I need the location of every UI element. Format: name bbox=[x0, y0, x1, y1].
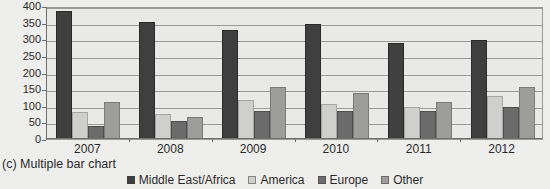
bar bbox=[420, 111, 436, 139]
y-axis-tick-label: 100 bbox=[0, 101, 41, 112]
bar bbox=[238, 100, 254, 139]
legend-swatch-icon bbox=[381, 176, 389, 184]
figure-caption: (c) Multiple bar chart bbox=[2, 157, 116, 172]
legend-item: Europe bbox=[318, 174, 369, 187]
y-axis-tick-label: 150 bbox=[0, 84, 41, 95]
chart-legend: Middle East/AfricaAmericaEuropeOther bbox=[0, 172, 550, 188]
legend-swatch-icon bbox=[248, 176, 256, 184]
legend-label: Europe bbox=[330, 174, 369, 187]
x-axis-tick-label: 2010 bbox=[295, 142, 378, 156]
y-axis-tick-label: 250 bbox=[0, 51, 41, 62]
legend-label: America bbox=[260, 174, 304, 187]
legend-swatch-icon bbox=[127, 176, 135, 184]
bar bbox=[404, 107, 420, 139]
legend-item: Other bbox=[381, 174, 423, 187]
bar-group bbox=[47, 8, 130, 139]
x-axis-tick-mark bbox=[129, 138, 130, 142]
bar-series-container bbox=[47, 8, 542, 139]
x-axis-tick-label: 2007 bbox=[46, 142, 129, 156]
legend-label: Other bbox=[393, 174, 423, 187]
bar bbox=[388, 43, 404, 139]
y-axis-tick-mark bbox=[42, 140, 46, 141]
bar-group bbox=[213, 8, 296, 139]
x-axis-tick-mark bbox=[295, 138, 296, 142]
bar bbox=[222, 30, 238, 139]
plot-area bbox=[46, 7, 543, 140]
legend-item: Middle East/Africa bbox=[127, 174, 236, 187]
bar bbox=[155, 114, 171, 139]
legend-label: Middle East/Africa bbox=[139, 174, 236, 187]
bar bbox=[56, 11, 72, 139]
bar bbox=[487, 96, 503, 139]
legend-swatch-icon bbox=[318, 176, 326, 184]
bar bbox=[88, 126, 104, 139]
y-axis-tick-label: 300 bbox=[0, 34, 41, 45]
bar-group bbox=[296, 8, 379, 139]
x-axis-tick-label: 2011 bbox=[377, 142, 460, 156]
bar bbox=[436, 102, 452, 139]
bar bbox=[353, 93, 369, 139]
y-axis-tick-label: 200 bbox=[0, 68, 41, 79]
x-axis-tick-label: 2008 bbox=[129, 142, 212, 156]
y-axis-line bbox=[46, 7, 47, 140]
bar bbox=[471, 40, 487, 139]
x-axis-tick-mark bbox=[212, 138, 213, 142]
x-axis-labels: 200720082009201020112012 bbox=[46, 142, 543, 158]
bar bbox=[104, 102, 120, 139]
bar bbox=[519, 87, 535, 139]
bar-group bbox=[130, 8, 213, 139]
bar bbox=[254, 111, 270, 139]
x-axis-tick-mark bbox=[377, 138, 378, 142]
y-axis-tick-label: 0 bbox=[0, 134, 41, 145]
bar bbox=[139, 22, 155, 139]
y-axis-tick-label: 400 bbox=[0, 1, 41, 12]
bar bbox=[187, 117, 203, 139]
x-axis-tick-mark bbox=[460, 138, 461, 142]
bar-group bbox=[461, 8, 544, 139]
bar bbox=[305, 24, 321, 139]
y-axis-tick-label: 350 bbox=[0, 18, 41, 29]
bar-group bbox=[378, 8, 461, 139]
y-axis-tick-label: 50 bbox=[0, 117, 41, 128]
bar bbox=[503, 107, 519, 139]
legend-item: America bbox=[248, 174, 304, 187]
bar bbox=[321, 104, 337, 139]
x-axis-tick-label: 2012 bbox=[460, 142, 543, 156]
bar bbox=[72, 112, 88, 139]
bar bbox=[270, 87, 286, 139]
x-axis-tick-label: 2009 bbox=[212, 142, 295, 156]
bar bbox=[171, 121, 187, 139]
bar bbox=[337, 111, 353, 139]
multiple-bar-chart-figure: 050100150200250300350400 200720082009201… bbox=[0, 0, 550, 189]
